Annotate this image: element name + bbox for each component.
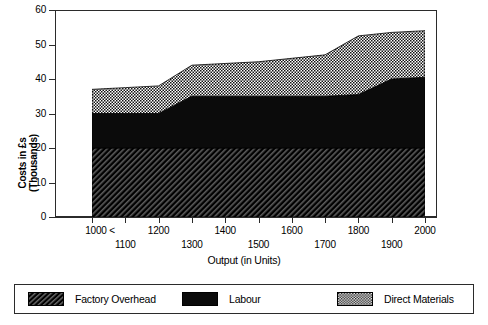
legend-item-direct-materials[interactable]: Direct Materials	[337, 292, 454, 306]
x-tick-mark	[358, 217, 359, 223]
y-tick-label: 40	[20, 74, 46, 84]
x-tick-label: 1500	[234, 240, 284, 250]
x-tick-mark	[125, 217, 126, 223]
x-tick-label: 1900	[367, 240, 417, 250]
x-tick-label: 1600	[267, 226, 317, 236]
x-tick-label: 1100	[100, 240, 150, 250]
legend-item-labour[interactable]: Labour	[182, 292, 261, 306]
x-tick-mark	[225, 217, 226, 223]
plot-area	[92, 10, 425, 217]
legend-swatch-direct-materials	[337, 292, 373, 306]
legend-label-factory-overhead: Factory Overhead	[75, 293, 156, 305]
y-tick-label: 60	[20, 5, 46, 15]
area-series-factory-overhead	[92, 148, 425, 217]
x-tick-label: 1300	[167, 240, 217, 250]
x-tick-label: 1400	[200, 226, 250, 236]
x-axis-line	[55, 217, 437, 218]
y-tick-label: 50	[20, 40, 46, 50]
x-tick-mark	[292, 217, 293, 223]
x-tick-mark	[259, 217, 260, 223]
y-tick-label: 0	[20, 212, 46, 222]
x-axis-title: Output (in Units)	[0, 254, 488, 266]
x-tick-label: 2000	[400, 226, 450, 236]
legend-label-labour: Labour	[229, 293, 261, 305]
legend-swatch-labour	[182, 292, 218, 306]
chart-page: Costs in £s (Thousands) 0102030405060 10…	[0, 0, 488, 325]
x-tick-mark	[159, 217, 160, 223]
x-tick-mark	[92, 217, 93, 223]
y-tick-label: 20	[20, 143, 46, 153]
x-tick-mark	[325, 217, 326, 223]
legend-item-factory-overhead[interactable]: Factory Overhead	[28, 292, 156, 306]
legend-items: Factory Overhead Labour Direct Materials	[15, 285, 473, 313]
x-tick-label: 1700	[300, 240, 350, 250]
y-tick-label: 30	[20, 109, 46, 119]
stacked-area-svg	[92, 10, 425, 217]
x-tick-label: 1800	[333, 226, 383, 236]
x-tick-mark	[192, 217, 193, 223]
x-tick-mark	[425, 217, 426, 223]
x-tick-label: 1200	[134, 226, 184, 236]
legend-label-direct-materials: Direct Materials	[384, 293, 454, 305]
y-axis-title: Costs in £s (Thousands)	[17, 103, 39, 223]
x-tick-label: 1000 <	[75, 226, 125, 236]
legend-swatch-factory-overhead	[28, 292, 64, 306]
x-tick-mark	[392, 217, 393, 223]
y-tick-label: 10	[20, 178, 46, 188]
legend: Factory Overhead Labour Direct Materials	[14, 284, 474, 314]
